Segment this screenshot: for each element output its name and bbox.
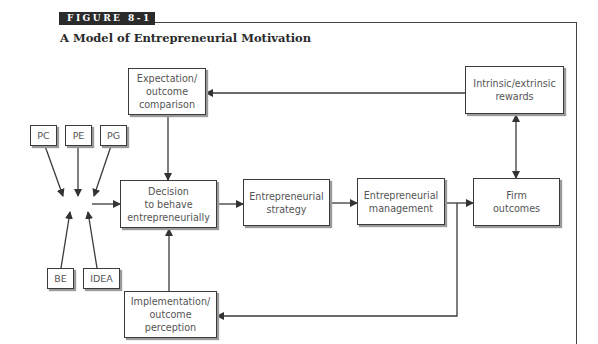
node-expectation: Expectation/ outcome comparison <box>128 68 206 115</box>
node-rewards: Intrinsic/extrinsic rewards <box>465 66 564 114</box>
node-rewards-label: Intrinsic/extrinsic rewards <box>473 77 555 103</box>
node-idea: IDEA <box>83 268 120 289</box>
node-firm-outcomes: Firm outcomes <box>473 178 560 226</box>
node-pg-label: PG <box>107 129 120 142</box>
node-management: Entrepreneurial management <box>357 178 445 225</box>
node-pg: PG <box>100 125 127 146</box>
arrow-be <box>61 212 70 268</box>
node-be: BE <box>47 268 74 289</box>
arrow-pc <box>45 146 63 196</box>
connector-lines <box>0 0 598 344</box>
node-firm-outcomes-label: Firm outcomes <box>493 189 540 215</box>
node-implementation-label: Implementation/ outcome perception <box>131 295 210 334</box>
node-strategy-label: Entrepreneurial strategy <box>249 190 323 216</box>
node-pc-label: PC <box>37 129 49 142</box>
node-implementation: Implementation/ outcome perception <box>124 291 217 338</box>
arrow-pg <box>94 146 111 196</box>
node-strategy: Entrepreneurial strategy <box>243 179 330 226</box>
node-decision: Decision to behave entrepreneurially <box>120 180 217 228</box>
node-expectation-label: Expectation/ outcome comparison <box>137 72 197 111</box>
node-pe-label: PE <box>73 129 85 142</box>
node-management-label: Entrepreneurial management <box>364 189 438 215</box>
node-idea-label: IDEA <box>90 272 113 285</box>
node-pc: PC <box>30 125 57 146</box>
node-decision-label: Decision to behave entrepreneurially <box>127 185 210 224</box>
arrow-idea <box>88 212 97 268</box>
node-be-label: BE <box>54 272 67 285</box>
node-pe: PE <box>65 125 92 146</box>
